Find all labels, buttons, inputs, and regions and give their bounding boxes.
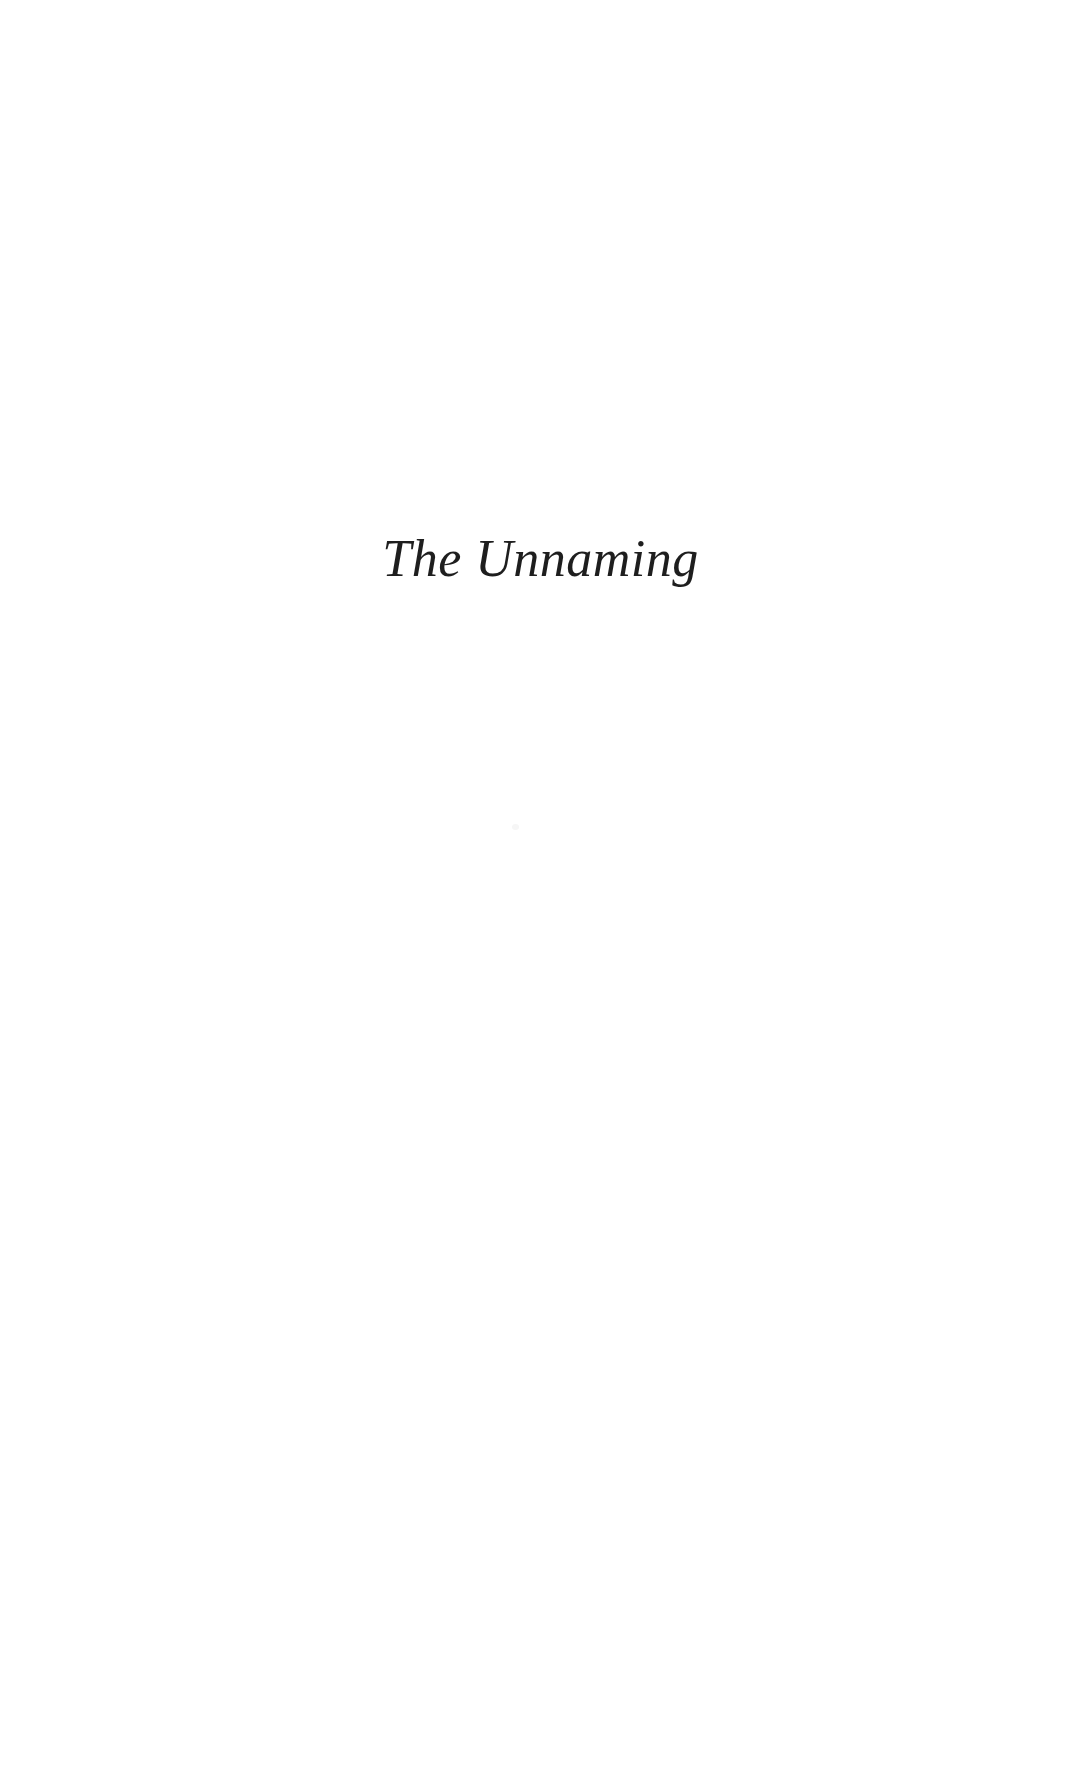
book-page: The Unnaming bbox=[0, 0, 1081, 1775]
scan-artifact-speck bbox=[512, 824, 519, 830]
half-title-text: The Unnaming bbox=[0, 528, 1081, 590]
